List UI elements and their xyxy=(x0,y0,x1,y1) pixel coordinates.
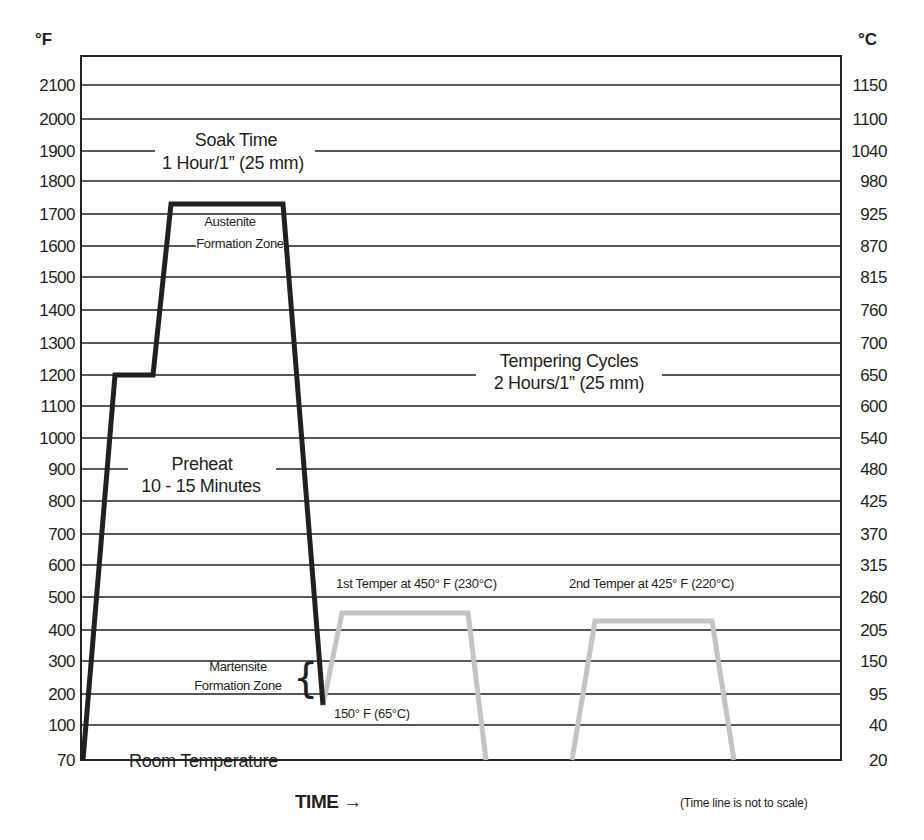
tempering-cycles-duration: 2 Hours/1” (25 mm) xyxy=(494,373,645,393)
fahrenheit-tick-labels: 7010020030040050060070080090010001100120… xyxy=(39,76,75,770)
fahrenheit-tick: 1000 xyxy=(39,429,75,448)
celsius-tick: 260 xyxy=(860,588,887,607)
fahrenheit-tick: 500 xyxy=(48,588,75,607)
celsius-tick: 20 xyxy=(869,751,887,770)
celsius-tick: 40 xyxy=(869,716,887,735)
room-temperature-label: Room Temperature xyxy=(129,751,278,771)
celsius-tick: 425 xyxy=(860,492,887,511)
celsius-tick: 1040 xyxy=(851,142,887,161)
fahrenheit-tick: 1200 xyxy=(39,366,75,385)
celsius-tick: 205 xyxy=(860,621,887,640)
soak-time-duration: 1 Hour/1” (25 mm) xyxy=(162,153,304,173)
celsius-tick: 815 xyxy=(860,268,887,287)
fahrenheit-tick: 600 xyxy=(48,556,75,575)
martensite-zone-label: Formation Zone xyxy=(194,678,282,693)
fahrenheit-tick: 400 xyxy=(48,621,75,640)
celsius-tick: 315 xyxy=(860,556,887,575)
martensite-label: Martensite xyxy=(209,659,267,674)
celsius-tick: 540 xyxy=(860,429,887,448)
fahrenheit-tick: 300 xyxy=(48,652,75,671)
fahrenheit-tick: 100 xyxy=(48,716,75,735)
first-temper-curve xyxy=(323,613,486,760)
celsius-tick-labels: 2040951502052603153704254805406006507007… xyxy=(851,76,887,770)
fahrenheit-tick: 2100 xyxy=(39,76,75,95)
celsius-tick: 370 xyxy=(860,525,887,544)
fahrenheit-tick: 70 xyxy=(57,751,75,770)
second-temper-label: 2nd Temper at 425° F (220°C) xyxy=(569,576,734,591)
first-temper-label: 1st Temper at 450° F (230°C) xyxy=(336,576,497,591)
preheat-label: Preheat xyxy=(172,454,233,474)
time-axis-label: TIME → xyxy=(295,791,362,812)
fahrenheit-tick: 800 xyxy=(48,492,75,511)
celsius-tick: 1150 xyxy=(852,76,887,95)
fahrenheit-tick: 1100 xyxy=(40,397,75,416)
scale-note: (Time line is not to scale) xyxy=(680,796,808,810)
tempering-cycles-label: Tempering Cycles xyxy=(500,351,639,371)
fahrenheit-tick: 1300 xyxy=(39,334,75,353)
austenite-zone-label: Formation Zone xyxy=(196,236,284,251)
celsius-tick: 600 xyxy=(860,397,887,416)
celsius-tick: 700 xyxy=(860,334,887,353)
soak-time-label: Soak Time xyxy=(195,130,278,150)
quench-temp-label: 150° F (65°C) xyxy=(334,706,410,721)
second-temper-curve xyxy=(572,621,734,760)
celsius-tick: 760 xyxy=(860,301,887,320)
celsius-tick: 150 xyxy=(860,652,887,671)
fahrenheit-tick: 200 xyxy=(48,685,75,704)
fahrenheit-tick: 1400 xyxy=(39,301,75,320)
fahrenheit-tick: 2000 xyxy=(39,110,75,129)
celsius-tick: 1100 xyxy=(852,110,887,129)
heat-treatment-chart: °F °C 7010020030040050060070080090010001… xyxy=(0,0,924,840)
celsius-tick: 650 xyxy=(860,366,887,385)
celsius-tick: 925 xyxy=(860,205,887,224)
fahrenheit-tick: 900 xyxy=(48,460,75,479)
martensite-brace-icon: { xyxy=(293,655,318,701)
celsius-tick: 870 xyxy=(860,237,887,256)
celsius-tick: 95 xyxy=(869,685,887,704)
fahrenheit-tick: 1900 xyxy=(39,142,75,161)
fahrenheit-tick: 1700 xyxy=(39,205,75,224)
celsius-tick: 980 xyxy=(860,172,887,191)
preheat-duration: 10 - 15 Minutes xyxy=(141,476,261,496)
fahrenheit-tick: 1800 xyxy=(39,172,75,191)
fahrenheit-axis-label: °F xyxy=(35,30,52,49)
fahrenheit-tick: 1600 xyxy=(39,237,75,256)
fahrenheit-tick: 700 xyxy=(48,525,75,544)
celsius-tick: 480 xyxy=(860,460,887,479)
fahrenheit-tick: 1500 xyxy=(39,268,75,287)
celsius-axis-label: °C xyxy=(858,30,877,49)
austenite-label: Austenite xyxy=(204,214,256,229)
gridlines xyxy=(81,85,841,725)
